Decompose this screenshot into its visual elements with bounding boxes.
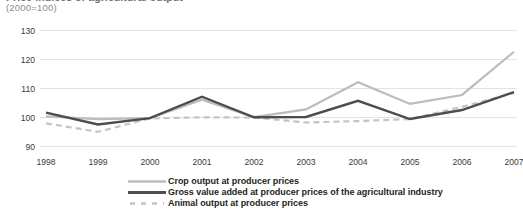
legend-swatch-gva-line	[128, 187, 168, 198]
x-axis-tick-label: 2002	[244, 157, 263, 167]
x-axis-tick-label: 2005	[400, 157, 419, 167]
y-axis-tick-labels: 90100110120130	[21, 26, 36, 152]
x-axis-tick-label: 2007	[504, 157, 523, 167]
legend-label-crop: Crop output at producer prices	[168, 176, 299, 187]
x-axis-tick-label: 1999	[88, 157, 107, 167]
legend-item-crop: Crop output at producer prices	[128, 176, 508, 187]
legend-swatch-crop-line	[128, 176, 168, 187]
legend-label-animal: Animal output at producer prices	[168, 198, 308, 209]
x-axis-tick-label: 1998	[36, 157, 55, 167]
y-axis-tick-label: 110	[21, 84, 35, 94]
gridlines	[40, 31, 517, 147]
y-axis-tick-label: 100	[21, 113, 36, 123]
x-axis-tick-labels: 1998199920002001200220032004200520062007	[36, 157, 523, 167]
chart-legend: Crop output at producer prices Gross val…	[128, 176, 508, 209]
x-axis-tick-label: 2000	[140, 157, 159, 167]
legend-item-animal: Animal output at producer prices	[128, 198, 508, 209]
legend-label-gva: Gross value added at producer prices of …	[168, 187, 443, 198]
x-axis-tick-label: 2003	[296, 157, 315, 167]
series-line-crop	[46, 52, 514, 119]
line-chart-figure: Price indices of agricultural output (20…	[0, 0, 523, 221]
x-axis-tick-label: 2006	[452, 157, 471, 167]
y-axis-tick-label: 130	[21, 26, 36, 36]
x-axis-tick-label: 2001	[192, 157, 211, 167]
y-axis-tick-label: 120	[21, 55, 36, 65]
x-axis-tick-label: 2004	[348, 157, 367, 167]
legend-swatch-animal-line	[128, 198, 168, 209]
series-lines	[46, 52, 514, 132]
legend-item-gva: Gross value added at producer prices of …	[128, 187, 508, 198]
y-axis-tick-label: 90	[25, 142, 35, 152]
